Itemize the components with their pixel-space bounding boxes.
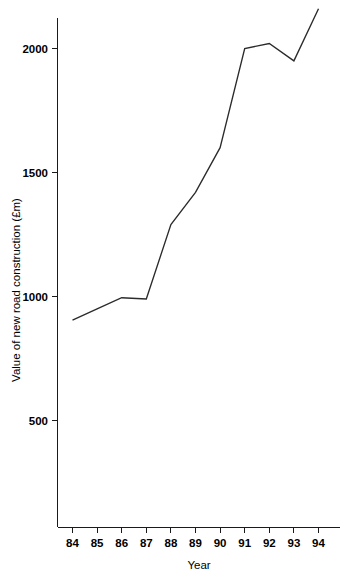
x-tick-label-91: 91 [238, 537, 251, 549]
x-tick-label-85: 85 [91, 537, 104, 549]
x-tick-label-84: 84 [66, 537, 79, 549]
x-tick-label-92: 92 [263, 537, 276, 549]
y-tick-label-1500: 1500 [22, 167, 48, 179]
y-axis-tick-labels: 500 1000 1500 2000 [22, 43, 48, 427]
data-series-line [73, 9, 319, 320]
x-tick-label-93: 93 [288, 537, 301, 549]
x-tick-label-87: 87 [140, 537, 153, 549]
x-axis-tick-labels: 84 85 86 87 88 89 90 91 92 93 94 [66, 537, 325, 549]
x-axis-ticks [73, 528, 319, 534]
x-tick-label-86: 86 [115, 537, 128, 549]
y-tick-label-1000: 1000 [22, 291, 48, 303]
y-tick-label-2000: 2000 [22, 43, 48, 55]
x-tick-label-89: 89 [189, 537, 202, 549]
x-tick-label-94: 94 [312, 537, 325, 549]
y-tick-label-500: 500 [29, 415, 48, 427]
x-tick-label-90: 90 [214, 537, 227, 549]
line-chart: 500 1000 1500 2000 84 85 86 87 88 89 [0, 0, 352, 577]
x-axis-title: Year [187, 559, 210, 571]
chart-canvas: 500 1000 1500 2000 84 85 86 87 88 89 [0, 0, 352, 577]
y-axis-title: Value of new road construction (£m) [10, 198, 22, 382]
x-tick-label-88: 88 [165, 537, 178, 549]
y-axis-ticks [52, 49, 58, 421]
